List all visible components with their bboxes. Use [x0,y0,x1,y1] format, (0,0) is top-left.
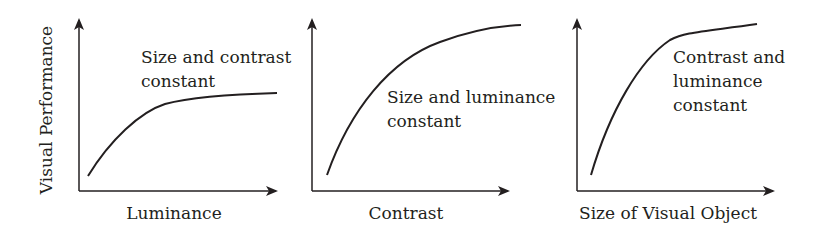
annotation-line-2: constant [141,71,215,91]
curve [88,93,277,176]
annotation-line-2: constant [387,111,461,131]
annotation-line-3: constant [673,95,747,115]
annotation-line-1: Size and contrast [141,47,291,67]
panel-size: Contrast and luminance constant Size of … [577,20,785,223]
annotation-line-1: Contrast and [673,47,785,67]
annotation-line-2: luminance [673,71,763,91]
x-axis-label: Contrast [369,203,444,223]
x-axis-label: Size of Visual Object [579,203,757,223]
panel-contrast: Size and luminance constant Contrast [312,20,555,223]
panel-luminance: Size and contrast constant Luminance [79,20,291,223]
x-axis-label: Luminance [126,203,221,223]
chart-canvas: Visual Performance Size and contrast con… [0,0,825,237]
annotation-line-1: Size and luminance [387,87,555,107]
y-axis-label: Visual Performance [36,26,56,195]
figure: Visual Performance Size and contrast con… [0,0,825,237]
